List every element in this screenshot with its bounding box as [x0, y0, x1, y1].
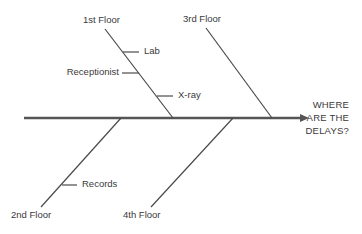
effect-line-2: ARE THE — [306, 111, 349, 124]
effect-label: WHERE ARE THE DELAYS? — [306, 98, 349, 137]
cause-label-lab: Lab — [144, 45, 160, 57]
effect-line-3: DELAYS? — [306, 124, 349, 137]
fishbone-diagram: 1st Floor 3rd Floor 2nd Floor 4th Floor … — [0, 0, 362, 234]
bone-4th-floor — [151, 118, 233, 207]
category-label-3rd-floor: 3rd Floor — [183, 13, 221, 25]
cause-label-records: Records — [82, 178, 117, 190]
effect-line-1: WHERE — [306, 98, 349, 111]
category-label-2nd-floor: 2nd Floor — [11, 209, 51, 221]
category-label-4th-floor: 4th Floor — [123, 209, 161, 221]
category-label-1st-floor: 1st Floor — [83, 14, 120, 26]
cause-label-receptionist: Receptionist — [67, 66, 119, 78]
bone-2nd-floor — [41, 118, 121, 207]
bone-3rd-floor — [206, 28, 272, 118]
cause-label-xray: X-ray — [178, 89, 201, 101]
